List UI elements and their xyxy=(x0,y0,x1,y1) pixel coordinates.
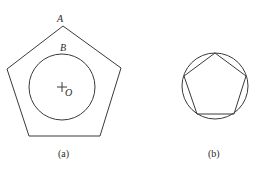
vertex-label-a: A xyxy=(56,13,64,24)
figure-b: (b) xyxy=(182,53,248,160)
inscribed-pentagon xyxy=(184,53,246,114)
caption-a: (a) xyxy=(58,148,69,160)
figure-a: A B O (a) xyxy=(7,13,121,160)
point-label-b: B xyxy=(60,42,66,53)
circumscribed-circle xyxy=(182,53,248,119)
caption-b: (b) xyxy=(208,148,220,160)
figure-canvas: A B O (a) (b) xyxy=(0,0,266,170)
center-label-o: O xyxy=(65,87,72,98)
